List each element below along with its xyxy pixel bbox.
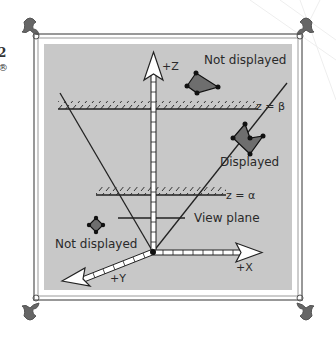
corner-flourish-bottom-left [22,295,39,320]
z-axis-label: +Z [162,61,179,72]
far-plane [58,101,258,109]
near-plane [96,187,226,195]
diagram-stage: 2 ® +Z Not displayed z = β Displayed z =… [0,0,336,338]
edge-text-fragment-2: ® [0,62,8,73]
label-not-displayed-left: Not displayed [55,238,137,250]
far-plane-label: z = β [256,101,285,112]
origin-point [150,249,156,255]
label-not-displayed-top: Not displayed [204,54,286,66]
edge-text-fragment-1: 2 [0,46,6,60]
corner-flourish-top-right [297,18,314,39]
label-displayed: Displayed [220,156,279,168]
x-axis-label: +X [236,262,253,273]
view-plane-label: View plane [194,212,260,224]
y-axis-label: +Y [110,273,126,284]
near-plane-label: z = α [226,190,255,201]
view-volume-diagram [0,0,336,338]
corner-flourish-top-left [22,18,39,39]
corner-flourish-bottom-right [297,295,314,320]
